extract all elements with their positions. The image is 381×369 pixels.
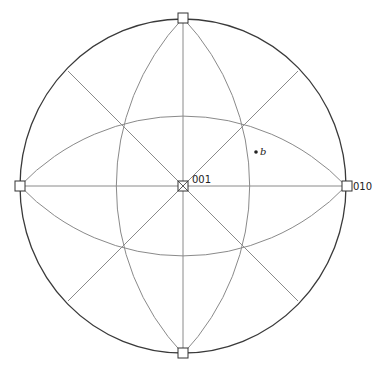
label-001: 001 — [192, 174, 211, 185]
pole-marker-right — [342, 181, 352, 191]
pole-marker-bottom — [178, 348, 188, 358]
label-010: 010 — [353, 181, 372, 192]
pole-marker-top — [178, 13, 188, 23]
pole-marker-left — [15, 181, 25, 191]
point-b-dot — [254, 150, 258, 154]
pole-marker-center — [178, 181, 188, 191]
stereographic-projection: b 001 010 — [0, 0, 381, 369]
point-b-label: b — [260, 146, 266, 157]
